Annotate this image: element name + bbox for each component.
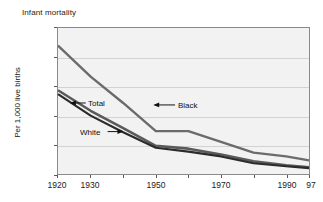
total-arrow-icon	[70, 101, 86, 106]
total-annotation-label: Total	[88, 99, 105, 108]
x-tick-label-1970: 1970	[212, 180, 231, 190]
x-tick-mark-1960	[188, 175, 189, 178]
black-arrow-icon	[153, 103, 175, 108]
x-tick-mark-1920	[57, 175, 58, 178]
x-tick-label-1930: 1930	[81, 180, 100, 190]
x-tick-mark-1997	[309, 175, 310, 178]
x-tick-mark-1940	[123, 175, 124, 178]
x-tick-mark-1990	[287, 175, 288, 178]
y-axis-label: Per 1,000 live births	[13, 48, 22, 158]
white-annotation-label: White	[80, 128, 100, 137]
black-annotation-label: Black	[178, 101, 198, 110]
plot-area: Total Black White	[57, 27, 310, 175]
x-tick-mark-1970	[221, 175, 222, 178]
x-tick-label-1990: 1990	[278, 180, 297, 190]
white-arrow-icon	[108, 129, 124, 134]
x-tick-mark-1930	[90, 175, 91, 178]
x-tick-mark-1980	[254, 175, 255, 178]
x-tick-mark-1950	[156, 175, 157, 178]
x-tick-label-97: 97	[306, 180, 315, 190]
infant-mortality-chart-figure: Infant mortality Per 1,000 live births 1…	[0, 0, 323, 202]
x-tick-label-1920: 1920	[48, 180, 67, 190]
x-tick-label-1950: 1950	[147, 180, 166, 190]
chart-title: Infant mortality	[22, 8, 76, 17]
